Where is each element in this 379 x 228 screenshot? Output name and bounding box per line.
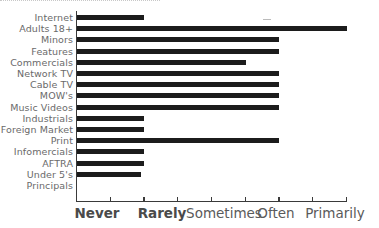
- category-label: Foreign Market: [1, 124, 73, 135]
- bar: [77, 26, 347, 31]
- x-tick: [143, 197, 144, 202]
- x-tick: [177, 197, 178, 202]
- bar: [77, 15, 144, 20]
- bar: [77, 37, 279, 42]
- bar: [77, 93, 279, 98]
- bar: [77, 149, 144, 154]
- bar: [77, 105, 279, 110]
- bar: [77, 161, 144, 166]
- category-label: Internet: [34, 12, 73, 23]
- x-tick: [211, 197, 212, 202]
- category-label: Music Videos: [10, 102, 73, 113]
- category-label: MOW's: [40, 90, 73, 101]
- x-tick-label: Never: [74, 205, 119, 221]
- bar: [77, 60, 246, 65]
- bar: [77, 49, 279, 54]
- category-label: Minors: [41, 34, 73, 45]
- x-tick: [346, 197, 347, 202]
- x-tick: [245, 197, 246, 202]
- bar: [77, 138, 279, 143]
- frequency-bar-chart: InternetAdults 18+MinorsFeaturesCommerci…: [0, 0, 379, 228]
- dash-mark: [263, 19, 271, 20]
- category-label: AFTRA: [42, 158, 73, 169]
- category-label: Adults 18+: [19, 23, 73, 34]
- x-tick-label: Primarily: [305, 205, 365, 221]
- category-label: Commercials: [10, 57, 73, 68]
- category-label: Network TV: [17, 68, 73, 79]
- category-label: Industrials: [22, 113, 73, 124]
- x-tick: [110, 197, 111, 202]
- category-label: Principals: [27, 180, 73, 191]
- category-label: Cable TV: [30, 79, 73, 90]
- category-label: Print: [51, 135, 73, 146]
- x-tick: [312, 197, 313, 202]
- top-border-line: [0, 0, 160, 2]
- bar: [77, 71, 279, 76]
- bar: [77, 116, 144, 121]
- bar: [77, 82, 279, 87]
- x-tick: [278, 197, 279, 202]
- bar: [77, 127, 144, 132]
- bar: [77, 172, 141, 177]
- y-axis-line: [76, 11, 77, 202]
- category-label: Infomercials: [14, 146, 73, 157]
- x-tick-label: Often: [257, 205, 294, 221]
- category-label: Features: [31, 46, 73, 57]
- x-tick-label: Rarely: [138, 205, 187, 221]
- x-tick-label: Sometimes: [186, 205, 262, 221]
- category-label: Under 5's: [27, 169, 73, 180]
